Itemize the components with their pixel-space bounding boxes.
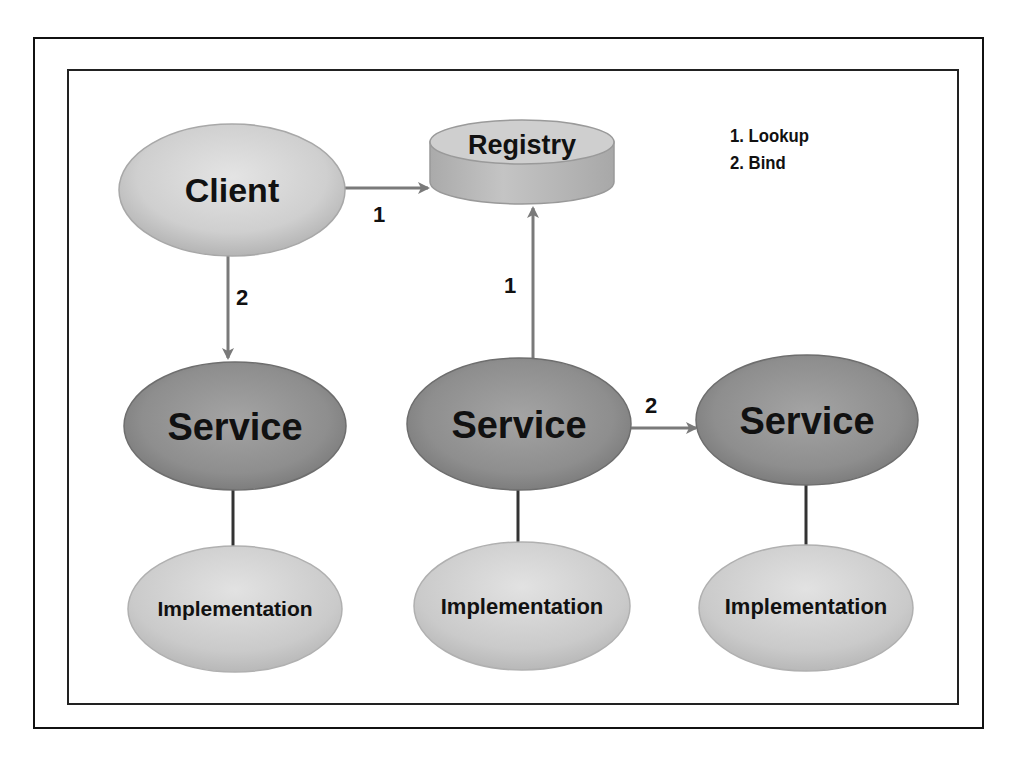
client-node[interactable]: Client <box>119 124 345 256</box>
registry-label: Registry <box>468 130 576 160</box>
impl-middle-node[interactable]: Implementation <box>414 542 630 670</box>
edge-label-service-service: 2 <box>645 393 657 418</box>
service-middle-label: Service <box>451 404 586 446</box>
impl-left-node[interactable]: Implementation <box>128 546 342 672</box>
edge-label-client-service: 2 <box>236 285 248 310</box>
legend-item-lookup: 1. Lookup <box>730 122 809 149</box>
service-right-label: Service <box>739 400 874 442</box>
impl-right-label: Implementation <box>725 594 888 619</box>
service-middle-node[interactable]: Service <box>407 358 631 490</box>
service-left-label: Service <box>167 406 302 448</box>
registry-node[interactable]: Registry <box>430 120 614 204</box>
client-label: Client <box>185 171 279 209</box>
legend-item-bind: 2. Bind <box>730 149 809 176</box>
diagram-canvas: 1 2 1 2 Registry Client Service Service … <box>0 0 1023 772</box>
impl-middle-label: Implementation <box>441 594 604 619</box>
edge-label-client-registry: 1 <box>373 202 385 227</box>
legend: 1. Lookup 2. Bind <box>730 122 820 176</box>
edge-label-service-registry: 1 <box>504 273 516 298</box>
service-right-node[interactable]: Service <box>696 355 918 485</box>
impl-right-node[interactable]: Implementation <box>699 545 913 671</box>
impl-left-label: Implementation <box>157 597 312 620</box>
service-left-node[interactable]: Service <box>124 362 346 490</box>
